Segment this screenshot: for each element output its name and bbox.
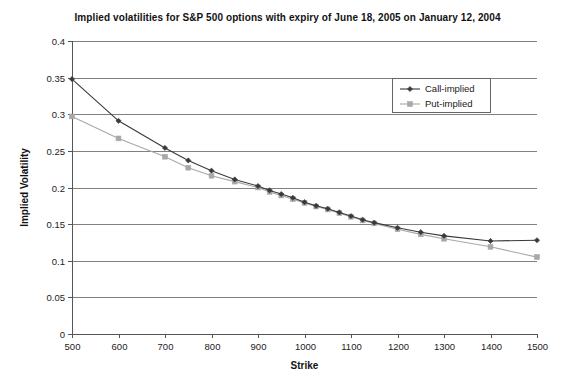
y-tick-label: 0.2 <box>52 183 65 194</box>
legend-label-put-implied: Put-implied <box>425 98 473 109</box>
data-point-marker-diamond <box>186 158 191 163</box>
y-tick-label: 0.15 <box>47 219 66 230</box>
x-tick-label: 800 <box>205 341 221 352</box>
y-axis-ticks-group: 00.050.10.150.20.250.30.350.4 <box>47 36 73 340</box>
y-axis-title: Implied Volatility <box>19 148 30 227</box>
y-tick-label: 0.1 <box>52 256 65 267</box>
y-tick-label: 0.4 <box>52 36 65 47</box>
y-tick-label: 0 <box>60 329 65 340</box>
data-point-marker-square <box>163 154 168 159</box>
chart-legend: Call-impliedPut-implied <box>393 79 491 113</box>
x-tick-label: 700 <box>158 341 174 352</box>
x-tick-label: 600 <box>112 341 128 352</box>
x-tick-label: 900 <box>251 341 267 352</box>
y-tick-label: 0.35 <box>47 73 66 84</box>
data-point-marker-square <box>408 102 413 107</box>
series-put-implied <box>70 114 540 259</box>
implied-volatility-line-chart: 500600700800900100011001200130014001500 … <box>0 0 575 389</box>
x-tick-label: 500 <box>65 341 81 352</box>
data-point-marker-diamond <box>534 238 539 243</box>
x-tick-label: 1500 <box>527 341 548 352</box>
legend-label-call-implied: Call-implied <box>425 83 475 94</box>
x-tick-label: 1200 <box>388 341 409 352</box>
x-tick-label: 1300 <box>434 341 455 352</box>
x-axis-ticks-group: 500600700800900100011001200130014001500 <box>65 334 549 352</box>
chart-container: Implied volatilities for S&P 500 options… <box>0 0 575 389</box>
data-point-marker-square <box>186 165 191 170</box>
data-point-marker-square <box>488 244 493 249</box>
data-point-marker-diamond <box>488 238 493 243</box>
data-point-marker-diamond <box>209 168 214 173</box>
x-axis-title: Strike <box>291 360 319 371</box>
y-tick-label: 0.25 <box>47 146 66 157</box>
data-point-marker-square <box>209 173 214 178</box>
x-tick-label: 1100 <box>341 341 361 352</box>
data-point-marker-square <box>116 136 121 141</box>
data-point-marker-diamond <box>162 145 167 150</box>
data-point-marker-square <box>535 255 540 260</box>
x-tick-label: 1000 <box>295 341 316 352</box>
y-tick-label: 0.05 <box>47 292 66 303</box>
y-tick-label: 0.3 <box>52 109 65 120</box>
data-point-marker-square <box>70 114 75 119</box>
series-line-put-implied <box>72 116 537 257</box>
x-tick-label: 1400 <box>481 341 502 352</box>
